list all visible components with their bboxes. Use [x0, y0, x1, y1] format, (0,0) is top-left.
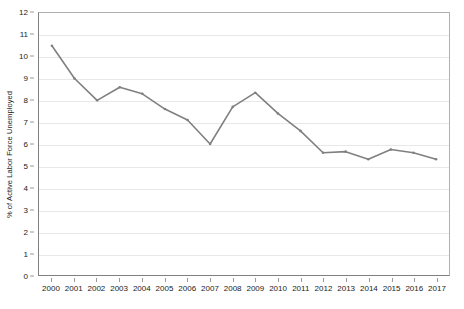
- data-point: [118, 86, 121, 89]
- data-point: [96, 99, 99, 102]
- x-tick-label: 2001: [65, 284, 83, 293]
- x-tick-mark: [142, 278, 143, 282]
- y-tick-mark: [30, 166, 34, 167]
- y-tick-mark: [30, 144, 34, 145]
- series-markers: [51, 44, 438, 160]
- x-tick-label: 2013: [337, 284, 355, 293]
- y-tick-label: 11: [20, 30, 28, 39]
- y-tick-mark: [30, 100, 34, 101]
- data-point: [164, 108, 167, 111]
- y-tick-label: 0: [24, 272, 28, 281]
- data-point: [186, 119, 189, 122]
- x-tick-mark: [119, 278, 120, 282]
- x-tick-mark: [392, 278, 393, 282]
- x-tick-label: 2011: [292, 284, 309, 293]
- data-point: [412, 151, 415, 154]
- y-tick-mark: [30, 254, 34, 255]
- y-tick-mark: [30, 56, 34, 57]
- x-axis-tick-labels: 2000200120022003200420052006200720082009…: [38, 278, 450, 300]
- y-tick-mark: [30, 276, 34, 277]
- y-tick-label: 9: [24, 74, 28, 83]
- data-point: [344, 150, 347, 153]
- x-tick-label: 2015: [383, 284, 401, 293]
- y-tick-mark: [30, 34, 34, 35]
- y-tick-label: 6: [24, 140, 28, 149]
- series-line: [52, 46, 436, 160]
- y-tick-mark: [30, 188, 34, 189]
- data-point: [73, 77, 76, 80]
- x-tick-label: 2003: [110, 284, 128, 293]
- x-tick-mark: [74, 278, 75, 282]
- y-tick-label: 5: [24, 162, 28, 171]
- x-tick-label: 2007: [201, 284, 219, 293]
- x-tick-label: 2016: [405, 284, 423, 293]
- y-tick-mark: [30, 210, 34, 211]
- x-tick-mark: [323, 278, 324, 282]
- y-tick-label: 8: [24, 96, 28, 105]
- data-point: [367, 158, 370, 161]
- x-tick-mark: [278, 278, 279, 282]
- x-tick-label: 2012: [315, 284, 333, 293]
- data-point: [390, 148, 393, 151]
- y-tick-label: 12: [19, 8, 28, 17]
- data-point: [231, 106, 234, 109]
- x-tick-label: 2000: [42, 284, 60, 293]
- data-point: [299, 130, 302, 133]
- x-tick-mark: [346, 278, 347, 282]
- x-tick-mark: [414, 278, 415, 282]
- data-point: [51, 44, 54, 47]
- x-tick-label: 2008: [224, 284, 242, 293]
- y-tick-label: 3: [24, 206, 28, 215]
- plot-area: [38, 12, 450, 276]
- x-tick-mark: [255, 278, 256, 282]
- x-tick-mark: [51, 278, 52, 282]
- y-tick-mark: [30, 232, 34, 233]
- data-point: [322, 151, 325, 154]
- x-tick-label: 2006: [178, 284, 196, 293]
- x-tick-label: 2009: [246, 284, 264, 293]
- data-point: [209, 143, 212, 146]
- x-tick-label: 2005: [156, 284, 174, 293]
- y-tick-mark: [30, 78, 34, 79]
- unemployment-line-chart: % of Active Labor Force Unemployed 01234…: [0, 0, 464, 309]
- x-tick-mark: [96, 278, 97, 282]
- y-tick-label: 4: [24, 184, 28, 193]
- y-axis-tick-labels: 0123456789101112: [0, 12, 34, 276]
- x-tick-mark: [187, 278, 188, 282]
- y-tick-label: 1: [24, 250, 28, 259]
- series-unemployment-rate: [39, 13, 449, 275]
- data-point: [254, 91, 257, 94]
- y-tick-label: 10: [19, 52, 28, 61]
- x-tick-mark: [233, 278, 234, 282]
- x-tick-mark: [210, 278, 211, 282]
- x-tick-mark: [437, 278, 438, 282]
- x-tick-mark: [369, 278, 370, 282]
- y-tick-label: 2: [24, 228, 28, 237]
- x-tick-mark: [301, 278, 302, 282]
- y-tick-mark: [30, 122, 34, 123]
- x-tick-label: 2014: [360, 284, 378, 293]
- y-tick-label: 7: [24, 118, 28, 127]
- x-tick-label: 2004: [133, 284, 151, 293]
- x-tick-mark: [165, 278, 166, 282]
- x-tick-label: 2017: [428, 284, 446, 293]
- data-point: [141, 92, 144, 95]
- x-tick-label: 2010: [269, 284, 287, 293]
- data-point: [435, 158, 438, 161]
- data-point: [277, 112, 280, 115]
- y-tick-mark: [30, 12, 34, 13]
- x-tick-label: 2002: [88, 284, 106, 293]
